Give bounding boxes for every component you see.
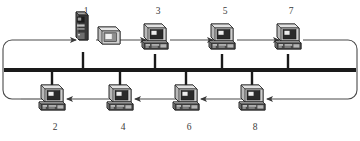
node-label-3: 3 (150, 6, 166, 16)
node-label-7: 7 (283, 6, 299, 16)
node-label-8: 8 (247, 122, 263, 132)
node-label-1: 1 (78, 6, 94, 16)
node-2[interactable] (39, 85, 65, 110)
node-label-2: 2 (47, 122, 63, 132)
network-topology-diagram: 1 3 5 7 2 4 6 8 (0, 0, 360, 141)
node-label-4: 4 (115, 122, 131, 132)
node-7[interactable] (275, 24, 301, 49)
node-6[interactable] (173, 85, 199, 110)
node-label-6: 6 (181, 122, 197, 132)
node-5[interactable] (209, 24, 235, 49)
node-label-5: 5 (217, 6, 233, 16)
node-4[interactable] (107, 85, 133, 110)
node-1[interactable] (76, 12, 120, 44)
node-3[interactable] (142, 24, 168, 49)
diagram-canvas (0, 0, 360, 141)
node-8[interactable] (239, 85, 265, 110)
